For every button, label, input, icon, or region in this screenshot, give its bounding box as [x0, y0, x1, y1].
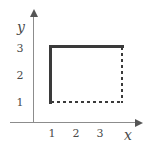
y-tick-label-1: 1 [14, 97, 26, 108]
math-figure: y x 3 2 1 1 2 3 [0, 0, 149, 156]
y-axis-arrow-icon [30, 9, 38, 17]
x-axis-arrow-icon [135, 119, 143, 127]
region-edge-right-dashed [121, 47, 123, 103]
x-axis-line [10, 122, 138, 123]
y-axis-line [33, 14, 34, 123]
region-edge-left-solid [49, 45, 52, 104]
shaded-region [51, 47, 122, 103]
y-tick-label-3: 3 [14, 43, 26, 54]
y-axis-label: y [17, 20, 25, 34]
region-edge-top-solid [50, 45, 124, 48]
x-tick-label-1: 1 [46, 128, 58, 139]
x-tick-label-3: 3 [94, 128, 106, 139]
x-axis-label: x [124, 128, 132, 142]
y-tick-label-2: 2 [14, 70, 26, 81]
region-edge-bottom-dashed [51, 101, 122, 103]
x-tick-label-2: 2 [70, 128, 82, 139]
